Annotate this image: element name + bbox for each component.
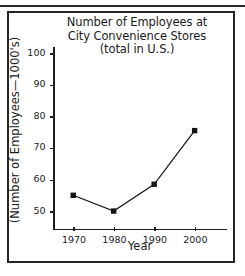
y-axis-tick-label: 80: [33, 110, 45, 121]
top-divider-rule: [0, 5, 245, 7]
y-axis-tick-label: 50: [33, 205, 45, 216]
y-axis-title-text: (Number of Employees—1000's): [8, 37, 22, 223]
data-point-marker: [111, 208, 116, 213]
y-axis-tick-label: 60: [33, 173, 45, 184]
x-axis-title: Year: [53, 239, 227, 253]
data-point-marker: [151, 182, 156, 187]
x-axis-tick: 1990: [154, 227, 156, 231]
y-axis-tick-label: 100: [27, 47, 45, 58]
data-series-line: [53, 47, 227, 230]
y-axis-tick: 70: [50, 148, 54, 150]
data-point-marker: [71, 193, 76, 198]
y-axis-tick: 80: [50, 116, 54, 118]
y-axis-tick: 100: [50, 53, 54, 55]
y-axis-tick: 50: [50, 211, 54, 213]
x-axis-tick: 2000: [195, 227, 197, 231]
series-polyline: [73, 131, 194, 211]
y-axis-tick: 90: [50, 85, 54, 87]
y-axis-tick-label: 90: [33, 78, 45, 89]
chart-title-line-2: City Convenience Stores: [47, 30, 227, 44]
data-point-marker: [192, 128, 197, 133]
plot-area: 50607080901001970198019902000: [53, 47, 227, 230]
y-axis-tick-label: 70: [33, 141, 45, 152]
y-axis-tick: 60: [50, 180, 54, 182]
y-axis-title: (Number of Employees—1000's): [7, 35, 23, 225]
x-axis-tick: 1980: [114, 227, 116, 231]
chart-figure-frame: Number of Employees at City Convenience …: [7, 11, 235, 263]
x-axis-tick: 1970: [73, 227, 75, 231]
chart-title-line-1: Number of Employees at: [47, 16, 227, 30]
